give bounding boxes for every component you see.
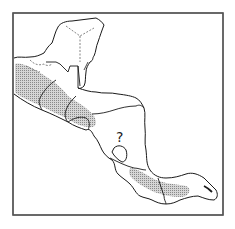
- map-frame: [13, 13, 223, 215]
- uncertainty-question-mark: ?: [116, 130, 123, 144]
- distribution-map: [0, 0, 235, 229]
